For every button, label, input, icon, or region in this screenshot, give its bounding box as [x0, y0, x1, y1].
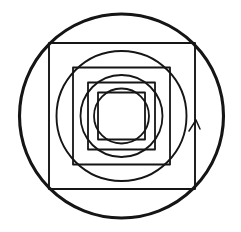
figure-background — [0, 0, 241, 232]
figure-svg-canvas: Nested concentric circles and squares Al… — [0, 0, 241, 232]
nested-geometry-figure: Nested concentric circles and squares Al… — [0, 0, 241, 232]
